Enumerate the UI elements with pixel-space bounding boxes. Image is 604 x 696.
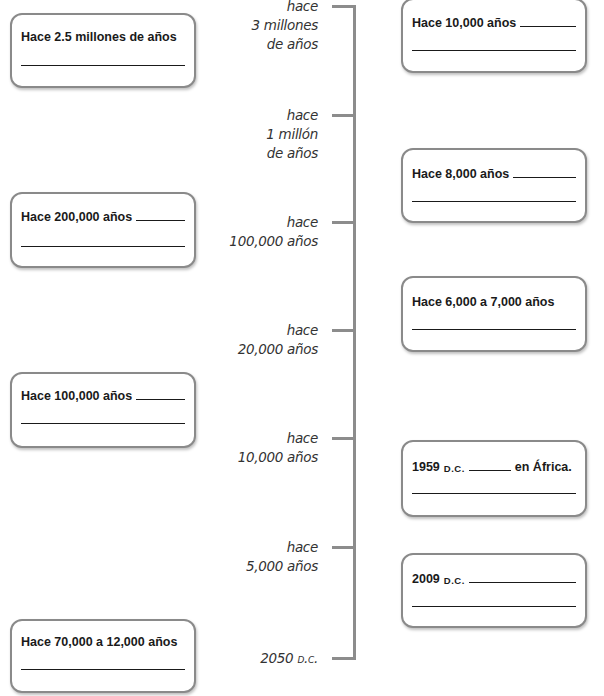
answer-line[interactable] [412, 329, 576, 330]
event-box-2009: 2009 D.C. [401, 553, 587, 628]
tick-label-2050: 2050 d.c. [260, 649, 318, 668]
answer-blank[interactable] [136, 398, 185, 400]
answer-line[interactable] [412, 201, 576, 202]
event-box-title: 2009 D.C. [412, 572, 576, 586]
answer-line[interactable] [21, 423, 185, 424]
event-box-title: Hace 2.5 millones de años [21, 30, 185, 44]
event-box-10000: Hace 10,000 años [401, 0, 587, 73]
answer-blank[interactable] [520, 25, 576, 27]
answer-line[interactable] [21, 246, 185, 247]
tick-label-5000: hace 5,000 años [246, 538, 318, 576]
event-box-title: Hace 100,000 años [21, 389, 185, 403]
tick-3-million [332, 5, 356, 8]
answer-blank[interactable] [469, 469, 511, 471]
event-box-200000: Hace 200,000 años [10, 192, 196, 268]
tick-label-3-million: hace 3 millones de años [252, 0, 318, 54]
event-box-8000: Hace 8,000 años [401, 148, 587, 223]
event-box-title: Hace 10,000 años [412, 16, 576, 30]
tick-2050 [332, 657, 356, 660]
event-box-6000-7000: Hace 6,000 a 7,000 años [401, 276, 587, 352]
tick-label-1-million: hace 1 millón de años [266, 106, 318, 163]
tick-10000 [332, 437, 356, 440]
event-box-1959: 1959 D.C. en África. [401, 440, 587, 517]
answer-blank[interactable] [136, 219, 185, 221]
answer-blank[interactable] [469, 581, 576, 583]
timeline-axis [353, 6, 356, 659]
tick-label-100000: hace 100,000 años [229, 213, 318, 251]
answer-line[interactable] [412, 493, 576, 494]
answer-line[interactable] [412, 50, 576, 51]
event-box-title: Hace 200,000 años [21, 210, 185, 224]
event-box-title: Hace 8,000 años [412, 167, 576, 181]
tick-5000 [332, 546, 356, 549]
answer-line[interactable] [412, 606, 576, 607]
tick-20000 [332, 329, 356, 332]
event-box-2-5-million: Hace 2.5 millones de años [10, 13, 196, 88]
answer-blank[interactable] [513, 176, 576, 178]
tick-1-million [332, 114, 356, 117]
tick-label-20000: hace 20,000 años [238, 321, 318, 359]
answer-line[interactable] [21, 669, 185, 670]
answer-line[interactable] [21, 65, 185, 66]
event-box-title: Hace 6,000 a 7,000 años [412, 295, 576, 309]
tick-100000 [332, 221, 356, 224]
event-box-70000-12000: Hace 70,000 a 12,000 años [10, 619, 196, 693]
event-box-title: Hace 70,000 a 12,000 años [21, 635, 185, 649]
tick-label-10000: hace 10,000 años [238, 429, 318, 467]
event-box-title: 1959 D.C. en África. [412, 460, 576, 474]
event-box-100000: Hace 100,000 años [10, 372, 196, 448]
